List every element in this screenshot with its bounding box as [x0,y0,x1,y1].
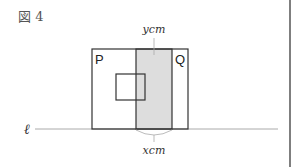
rect-p-label: P [95,52,104,67]
bottom-brace [136,130,172,135]
shaded-overlap [136,49,172,129]
rect-q-label: Q [175,52,185,67]
top-measure-label: ycm [142,23,166,36]
geometry-diagram: ℓ P Q ycm xcm [0,0,295,167]
line-l-label: ℓ [24,121,30,137]
bottom-measure-label: xcm [143,144,166,157]
